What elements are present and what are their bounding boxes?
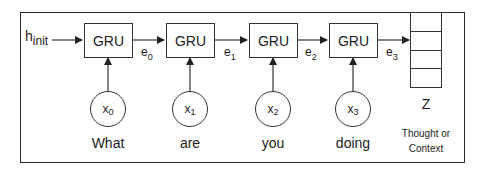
e-subscript: 3 [393,52,398,62]
input-node-x3: x3 [335,91,371,127]
input-word-1: are [160,135,220,151]
context-vector-cell [411,13,441,32]
output-label-e2: e2 [305,45,317,59]
x-subscript: 2 [273,107,278,117]
input-node-x0: x0 [90,91,126,127]
h-init-label: hinit [25,28,48,44]
context-caption-line2: Context [395,141,457,156]
context-vector-cell [411,51,441,70]
e-base: e [386,45,393,59]
context-vector-cell [411,69,441,87]
e-base: e [141,45,148,59]
gru-label: GRU [258,33,289,49]
gru-label: GRU [93,33,124,49]
h-subscript: init [33,34,48,48]
x-subscript: 3 [353,107,358,117]
context-vector-label: Z [410,96,442,112]
e-subscript: 0 [148,52,153,62]
input-word-3: doing [323,135,383,151]
context-caption-line1: Thought or [395,126,457,141]
e-base: e [305,45,312,59]
gru-cell-3: GRU [329,23,378,58]
x-subscript: 1 [190,107,195,117]
input-node-x2: x2 [255,91,291,127]
input-word-2: you [243,135,303,151]
e-subscript: 1 [231,52,236,62]
context-vector-cell [411,32,441,51]
context-caption: Thought or Context [395,126,457,156]
gru-cell-0: GRU [84,23,133,58]
input-word-0: What [78,135,138,151]
input-node-x1: x1 [172,91,208,127]
output-label-e3: e3 [386,45,398,59]
gru-cell-1: GRU [166,23,215,58]
x-subscript: 0 [108,107,113,117]
gru-label: GRU [338,33,369,49]
e-subscript: 2 [312,52,317,62]
output-label-e0: e0 [141,45,153,59]
context-vector-stack [410,12,442,88]
e-base: e [224,45,231,59]
gru-label: GRU [175,33,206,49]
h-base: h [25,28,33,44]
gru-cell-2: GRU [249,23,298,58]
output-label-e1: e1 [224,45,236,59]
